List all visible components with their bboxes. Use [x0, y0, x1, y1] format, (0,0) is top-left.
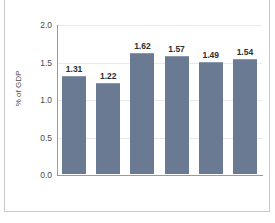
gridline — [58, 100, 262, 101]
bar[interactable] — [96, 83, 120, 175]
gridline — [58, 25, 262, 26]
y-axis-tick-label: 0.0 — [40, 170, 52, 180]
y-axis-tick-label: 0.5 — [40, 133, 52, 143]
y-axis-tick-label: 2.0 — [40, 20, 52, 30]
bar-value-label: 1.31 — [66, 64, 83, 74]
bar-value-label: 1.54 — [237, 47, 254, 57]
x-axis-line — [57, 175, 263, 176]
bar-value-label: 1.49 — [202, 50, 219, 60]
y-axis-title: % of GDP — [14, 54, 23, 124]
plot-area: 0.00.51.01.52.0 1.3120071.2220081.622009… — [57, 25, 262, 175]
y-axis-tick-label: 1.5 — [40, 58, 52, 68]
bar[interactable] — [62, 76, 86, 174]
bar[interactable] — [233, 59, 257, 175]
bar-value-label: 1.57 — [168, 44, 185, 54]
bar-value-label: 1.62 — [134, 41, 151, 51]
bar[interactable] — [165, 56, 189, 174]
gridline — [58, 138, 262, 139]
gridline — [58, 63, 262, 64]
bar-value-label: 1.22 — [100, 71, 117, 81]
bar[interactable] — [199, 62, 223, 174]
figure-frame: % of GDP 0.00.51.01.52.0 1.3120071.22200… — [4, 0, 270, 212]
y-axis-tick-label: 1.0 — [40, 95, 52, 105]
bar[interactable] — [130, 53, 154, 175]
